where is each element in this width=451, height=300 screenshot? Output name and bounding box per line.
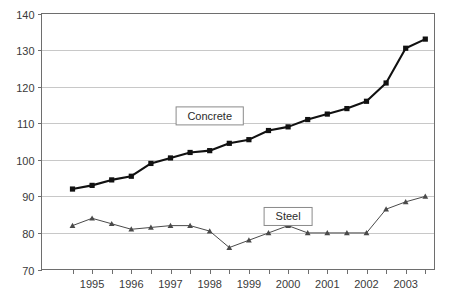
x-axis-tick-marks xyxy=(74,270,426,274)
y-axis-tick-label: 120 xyxy=(16,82,34,94)
x-axis-tick-label: 1998 xyxy=(197,278,221,290)
data-point-concrete xyxy=(207,148,212,153)
x-axis-tick-label: 2001 xyxy=(315,278,339,290)
data-point-concrete xyxy=(227,141,232,146)
data-point-concrete xyxy=(168,155,173,160)
x-axis-tick-labels: 199519961997199819992000200120022003 xyxy=(80,278,418,290)
data-point-concrete xyxy=(325,111,330,116)
x-axis-tick-label: 1997 xyxy=(158,278,182,290)
data-point-concrete xyxy=(188,150,193,155)
data-point-concrete xyxy=(148,161,153,166)
data-point-steel xyxy=(89,215,95,220)
y-axis-tick-label: 90 xyxy=(22,191,34,203)
y-axis-tick-label: 80 xyxy=(22,228,34,240)
y-axis-tick-label: 100 xyxy=(16,155,34,167)
data-point-concrete xyxy=(90,183,95,188)
series-markers xyxy=(70,37,429,250)
y-axis-tick-label: 130 xyxy=(16,45,34,57)
annotation-label-steel: Steel xyxy=(276,210,301,222)
x-axis-tick-label: 2003 xyxy=(393,278,417,290)
series-lines xyxy=(73,39,426,247)
y-axis-tick-label: 140 xyxy=(16,9,34,21)
data-point-concrete xyxy=(286,124,291,129)
y-axis-tick-label: 70 xyxy=(22,265,34,277)
data-point-concrete xyxy=(423,37,428,42)
x-axis-tick-label: 1995 xyxy=(80,278,104,290)
y-axis-tick-labels: 708090100110120130140 xyxy=(16,9,34,277)
data-point-concrete xyxy=(384,80,389,85)
data-point-concrete xyxy=(266,128,271,133)
x-axis-tick-label: 2000 xyxy=(276,278,300,290)
data-point-concrete xyxy=(344,106,349,111)
series-line-concrete xyxy=(73,39,426,189)
x-axis-tick-label: 1996 xyxy=(119,278,143,290)
line-chart: 708090100110120130140 199519961997199819… xyxy=(0,0,451,300)
x-axis-tick-label: 1999 xyxy=(237,278,261,290)
data-point-concrete xyxy=(305,117,310,122)
data-point-concrete xyxy=(364,99,369,104)
data-point-concrete xyxy=(246,137,251,142)
data-point-concrete xyxy=(70,186,75,191)
y-axis-tick-marks xyxy=(38,15,42,271)
data-point-concrete xyxy=(109,177,114,182)
y-axis-tick-label: 110 xyxy=(17,118,35,130)
x-axis-tick-label: 2002 xyxy=(354,278,378,290)
data-point-concrete xyxy=(403,46,408,51)
chart-container: 708090100110120130140 199519961997199819… xyxy=(0,0,451,300)
data-point-concrete xyxy=(129,174,134,179)
annotation-label-concrete: Concrete xyxy=(187,110,232,122)
